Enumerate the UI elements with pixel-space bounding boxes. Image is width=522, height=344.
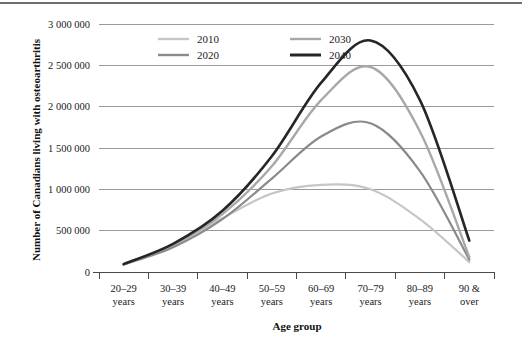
x-axis-tick-label: 30–39 xyxy=(160,283,186,294)
y-axis-title: Number of Canadians living with osteoart… xyxy=(30,38,42,261)
x-axis-tick-label: years xyxy=(261,296,283,307)
x-axis-tick-label: years xyxy=(310,296,332,307)
x-axis-title: Age group xyxy=(273,320,322,332)
x-axis-group xyxy=(99,272,494,279)
legend-label-2020: 2020 xyxy=(197,49,220,61)
x-axis-tick-label: years xyxy=(211,296,233,307)
x-axis-tick-label: 90 & xyxy=(459,283,480,294)
legend-label-2010: 2010 xyxy=(197,33,220,45)
y-axis-tick-label: 1 000 000 xyxy=(48,184,90,195)
y-axis-tick-label: 2 500 000 xyxy=(48,60,90,71)
legend-label-2030: 2030 xyxy=(329,33,352,45)
y-axis-tick-label: 1 500 000 xyxy=(48,143,90,154)
x-axis-tick-label: years xyxy=(162,296,184,307)
x-axis-tick-label: 20–29 xyxy=(111,283,137,294)
x-axis-tick-label: 60–69 xyxy=(308,283,334,294)
x-axis-tick-label: 50–59 xyxy=(259,283,285,294)
x-axis-tick-labels-group: 20–29years30–39years40–49years50–59years… xyxy=(111,283,480,307)
y-axis-tick-label: 2 000 000 xyxy=(48,101,90,112)
x-axis-tick-label: 80–89 xyxy=(407,283,433,294)
x-axis-tick-label: years xyxy=(409,296,431,307)
y-axis-tick-label: 3 000 000 xyxy=(48,19,90,30)
x-axis-tick-label: 40–49 xyxy=(209,283,235,294)
x-axis-tick-label: years xyxy=(359,296,381,307)
x-axis-tick-label: 70–79 xyxy=(357,283,383,294)
legend-group: 2010203020202040 xyxy=(158,33,352,61)
y-axis-tick-label: 0 xyxy=(85,267,90,278)
x-axis-tick-label: years xyxy=(113,296,135,307)
chart-page: Number of Canadians living with osteoart… xyxy=(0,0,522,344)
y-axis-tick-label: 500 000 xyxy=(56,225,90,236)
x-axis-tick-label: over xyxy=(460,296,479,307)
osteoarthritis-line-chart: Number of Canadians living with osteoart… xyxy=(0,0,522,344)
legend-label-2040: 2040 xyxy=(329,49,352,61)
y-axis-ticks-group: 0500 0001 000 0001 500 0002 000 0002 500… xyxy=(48,19,99,278)
series-line-2010 xyxy=(124,184,470,264)
